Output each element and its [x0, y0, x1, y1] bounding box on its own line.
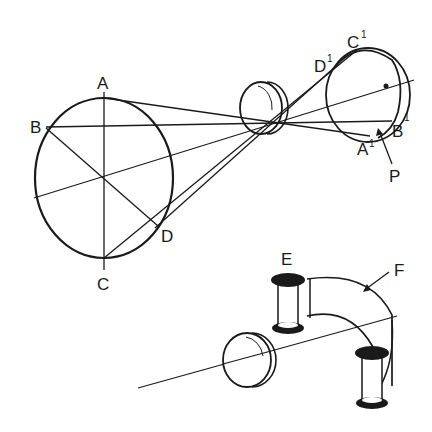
- label-c1: C: [347, 33, 359, 52]
- label-e: E: [281, 250, 292, 269]
- object-ellipse-group: [35, 92, 173, 270]
- lens-front: [240, 82, 282, 134]
- label-d1: D: [314, 57, 326, 76]
- label-a1: A: [357, 140, 369, 159]
- label-a: A: [97, 74, 109, 93]
- lens-edge: [267, 82, 288, 134]
- lens-bottom: [223, 333, 276, 387]
- lens-bottom-front: [223, 333, 271, 387]
- label-b: B: [30, 118, 41, 137]
- label-d: D: [161, 227, 173, 246]
- coil-second-top-flange: [355, 346, 389, 360]
- label-a1-sup: 1: [369, 138, 375, 149]
- coil-e-bottom-flange-hole: [278, 322, 298, 328]
- coil-e-top-flange: [271, 273, 305, 287]
- lens-highlight: [258, 86, 272, 110]
- label-b1-sup: 1: [404, 112, 410, 123]
- coil-e-body: [278, 281, 298, 326]
- label-f: F: [394, 261, 404, 280]
- label-p: P: [389, 167, 400, 186]
- focal-point-dot: [384, 84, 389, 89]
- label-c: C: [97, 275, 109, 294]
- label-d1-sup: 1: [327, 53, 333, 64]
- coil-second-bottom-flange-hole: [362, 397, 382, 403]
- coil-second-body: [362, 355, 382, 400]
- diagram-canvas: A B C D C 1 D 1 B 1 A 1 P E F: [0, 0, 432, 432]
- label-c1-sup: 1: [361, 29, 367, 40]
- label-b1: B: [392, 122, 403, 141]
- pointer-f-line: [366, 272, 389, 289]
- optical-axis: [34, 80, 414, 198]
- ray-b: [46, 121, 392, 127]
- tube-inner: [307, 314, 373, 347]
- coil-e: [271, 273, 305, 334]
